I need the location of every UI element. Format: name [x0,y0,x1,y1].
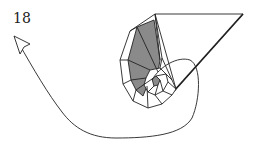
arrowhead-icon [14,36,30,54]
origami-diagram [0,0,261,147]
